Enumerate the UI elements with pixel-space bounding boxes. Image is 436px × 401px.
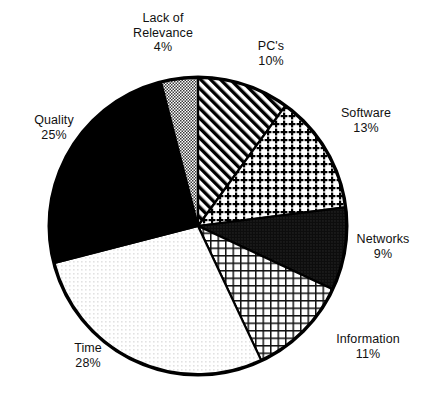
slice-label-pcs-name: PC's [226, 39, 316, 54]
slice-label-lack-of-relevance-line2: Relevance [103, 26, 223, 41]
slice-value-lack-of-relevance: 4% [103, 40, 223, 55]
slice-label-lack-of-relevance: Lack of Relevance 4% [103, 11, 223, 55]
slice-label-quality: Quality 25% [11, 113, 97, 142]
slice-value-quality: 25% [11, 128, 97, 143]
slice-label-software: Software 13% [318, 106, 414, 135]
slice-label-lack-of-relevance-line1: Lack of [103, 11, 223, 26]
slice-value-information: 11% [312, 347, 424, 362]
slice-value-software: 13% [318, 121, 414, 136]
slice-label-time: Time 28% [50, 341, 126, 370]
pie-chart: Lack of Relevance 4% PC's 10% Software 1… [0, 0, 436, 401]
slice-label-information-name: Information [312, 332, 424, 347]
slice-label-quality-name: Quality [11, 113, 97, 128]
slice-label-networks: Networks 9% [333, 232, 433, 261]
slice-value-time: 28% [50, 356, 126, 371]
slice-value-pcs: 10% [226, 54, 316, 69]
slice-label-information: Information 11% [312, 332, 424, 361]
slice-value-networks: 9% [333, 247, 433, 262]
slice-label-software-name: Software [318, 106, 414, 121]
slice-label-networks-name: Networks [333, 232, 433, 247]
slice-label-time-name: Time [50, 341, 126, 356]
slice-label-pcs: PC's 10% [226, 39, 316, 68]
